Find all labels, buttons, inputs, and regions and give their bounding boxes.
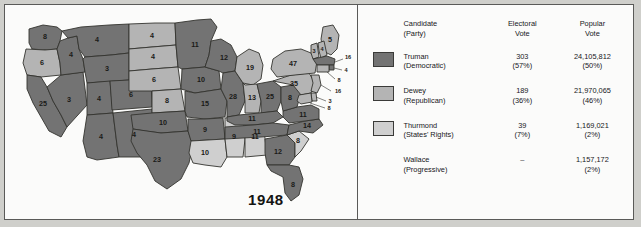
state-label-OH: 25 xyxy=(266,92,274,101)
legend-header-popular: Popular Vote xyxy=(554,19,631,52)
legend-pane: Candidate (Party) Electoral Vote Popular… xyxy=(358,5,633,219)
legend-popular-pct-thurmond: (2%) xyxy=(554,130,631,140)
state-label-WV: 8 xyxy=(288,93,292,102)
state-label-MS: 9 xyxy=(232,132,236,141)
legend-swatch-truman xyxy=(373,52,394,67)
state-label-PA: 35 xyxy=(290,79,298,88)
state-label-CA: 25 xyxy=(39,99,47,108)
legend-table: Candidate (Party) Electoral Vote Popular… xyxy=(373,19,631,190)
legend-header-row: Candidate (Party) Electoral Vote Popular… xyxy=(373,19,631,52)
legend-electoral-dewey: 189 (36%) xyxy=(491,86,554,121)
legend-popular-pct-wallace: (2%) xyxy=(554,165,631,175)
legend-popular-dewey: 21,970,065 (46%) xyxy=(554,86,631,121)
legend-swatch-cell-wallace xyxy=(373,155,403,190)
legend-row-thurmond[interactable]: Thurmond (States' Rights) 39 (7%) 1,169,… xyxy=(373,121,631,156)
state-label-NJ: 16 xyxy=(335,88,341,94)
legend-header-swatch-spacer xyxy=(373,19,403,52)
legend-row-dewey[interactable]: Dewey (Republican) 189 (36%) 21,970,065 … xyxy=(373,86,631,121)
legend-electoral-vote-wallace: – xyxy=(491,155,554,165)
leader-line-NJ xyxy=(321,85,331,91)
legend-candidate-truman: Truman (Democratic) xyxy=(403,52,490,87)
legend-electoral-vote-truman: 303 xyxy=(491,52,554,62)
legend-candidate-party-dewey: (Republican) xyxy=(403,96,490,106)
state-label-DE: 3 xyxy=(328,98,331,104)
legend-header-electoral: Electoral Vote xyxy=(491,19,554,52)
state-label-NV: 3 xyxy=(67,95,71,104)
state-label-IL: 28 xyxy=(229,92,237,101)
leader-line-MA xyxy=(335,59,343,62)
legend-header-candidate-line2: (Party) xyxy=(403,29,490,39)
state-label-NC: 14 xyxy=(303,121,311,130)
state-label-FL: 8 xyxy=(291,180,295,189)
state-label-VT: 3 xyxy=(312,48,315,54)
legend-candidate-party-thurmond: (States' Rights) xyxy=(403,130,490,140)
legend-popular-truman: 24,105,812 (50%) xyxy=(554,52,631,87)
legend-candidate-dewey: Dewey (Republican) xyxy=(403,86,490,121)
state-label-WA: 8 xyxy=(43,32,47,41)
election-map-figure: 8 6 25 3 4 4 3 4 4 4 6 4 4 6 8 10 23 11 … xyxy=(0,0,641,227)
legend-popular-pct-dewey: (46%) xyxy=(554,96,631,106)
legend-candidate-thurmond: Thurmond (States' Rights) xyxy=(403,121,490,156)
legend-candidate-name-thurmond: Thurmond xyxy=(403,121,490,131)
legend-popular-pct-truman: (50%) xyxy=(554,61,631,71)
legend-swatch-thurmond xyxy=(373,121,394,136)
legend-swatch-dewey xyxy=(373,86,394,101)
state-label-OR: 6 xyxy=(40,58,44,67)
year-label: 1948 xyxy=(248,191,284,208)
legend-popular-vote-thurmond: 1,169,021 xyxy=(554,121,631,131)
state-label-MI: 19 xyxy=(246,63,254,72)
state-label-NY: 47 xyxy=(289,59,297,68)
figure-frame: 8 6 25 3 4 4 3 4 4 4 6 4 4 6 8 10 23 11 … xyxy=(4,4,634,220)
state-RI[interactable] xyxy=(329,65,334,70)
state-label-IN: 13 xyxy=(248,93,256,102)
legend-electoral-vote-dewey: 189 xyxy=(491,86,554,96)
state-label-MA: 16 xyxy=(345,54,351,60)
legend-candidate-wallace: Wallace (Progressive) xyxy=(403,155,490,190)
state-label-TX: 23 xyxy=(153,155,161,164)
legend-popular-vote-wallace: 1,157,172 xyxy=(554,155,631,165)
legend-electoral-pct-dewey: (36%) xyxy=(491,96,554,106)
legend-electoral-pct-truman: (57%) xyxy=(491,61,554,71)
legend-electoral-pct-thurmond: (7%) xyxy=(491,130,554,140)
legend-electoral-vote-thurmond: 39 xyxy=(491,121,554,131)
state-label-RI: 4 xyxy=(344,67,348,73)
state-label-VA: 11 xyxy=(299,110,307,119)
state-CT[interactable] xyxy=(317,65,329,72)
state-label-IA: 10 xyxy=(197,75,205,84)
legend-popular-thurmond: 1,169,021 (2%) xyxy=(554,121,631,156)
us-election-map: 8 6 25 3 4 4 3 4 4 4 6 4 4 6 8 10 23 11 … xyxy=(5,5,357,219)
state-label-CO: 6 xyxy=(129,90,133,99)
state-label-LA: 10 xyxy=(201,148,209,157)
state-MD[interactable] xyxy=(297,93,312,104)
state-label-MO: 15 xyxy=(201,99,209,108)
legend-popular-vote-dewey: 21,970,065 xyxy=(554,86,631,96)
state-label-WI: 12 xyxy=(220,53,228,62)
state-label-SC: 8 xyxy=(296,136,300,145)
legend-header-candidate: Candidate (Party) xyxy=(403,19,490,52)
state-label-GA: 12 xyxy=(274,147,282,156)
state-label-TN: 11 xyxy=(253,127,261,136)
legend-swatch-cell-truman xyxy=(373,52,403,87)
state-label-MD: 8 xyxy=(327,105,330,111)
state-label-NE: 6 xyxy=(152,75,156,84)
legend-header-electoral-line1: Electoral xyxy=(491,19,554,29)
legend-candidate-party-wallace: (Progressive) xyxy=(403,165,490,175)
leader-line-CT xyxy=(327,72,335,79)
legend-header-popular-line2: Vote xyxy=(554,29,631,39)
state-label-MT: 4 xyxy=(95,35,99,44)
map-pane: 8 6 25 3 4 4 3 4 4 4 6 4 4 6 8 10 23 11 … xyxy=(5,5,357,219)
legend-popular-wallace: 1,157,172 (2%) xyxy=(554,155,631,190)
state-label-AZ: 4 xyxy=(99,132,103,141)
state-label-KY: 11 xyxy=(248,114,256,123)
legend-candidate-name-dewey: Dewey xyxy=(403,86,490,96)
legend-row-wallace[interactable]: Wallace (Progressive) – 1,157,172 (2%) xyxy=(373,155,631,190)
leader-line-RI xyxy=(334,68,342,70)
legend-electoral-thurmond: 39 (7%) xyxy=(491,121,554,156)
legend-row-truman[interactable]: Truman (Democratic) 303 (57%) 24,105,812… xyxy=(373,52,631,87)
state-NJ[interactable] xyxy=(311,75,321,93)
state-label-ID: 4 xyxy=(69,50,73,59)
legend-candidate-name-wallace: Wallace xyxy=(403,155,490,165)
leader-line-DE xyxy=(316,97,326,101)
state-label-ND: 4 xyxy=(150,31,154,40)
state-TX[interactable] xyxy=(131,129,193,189)
